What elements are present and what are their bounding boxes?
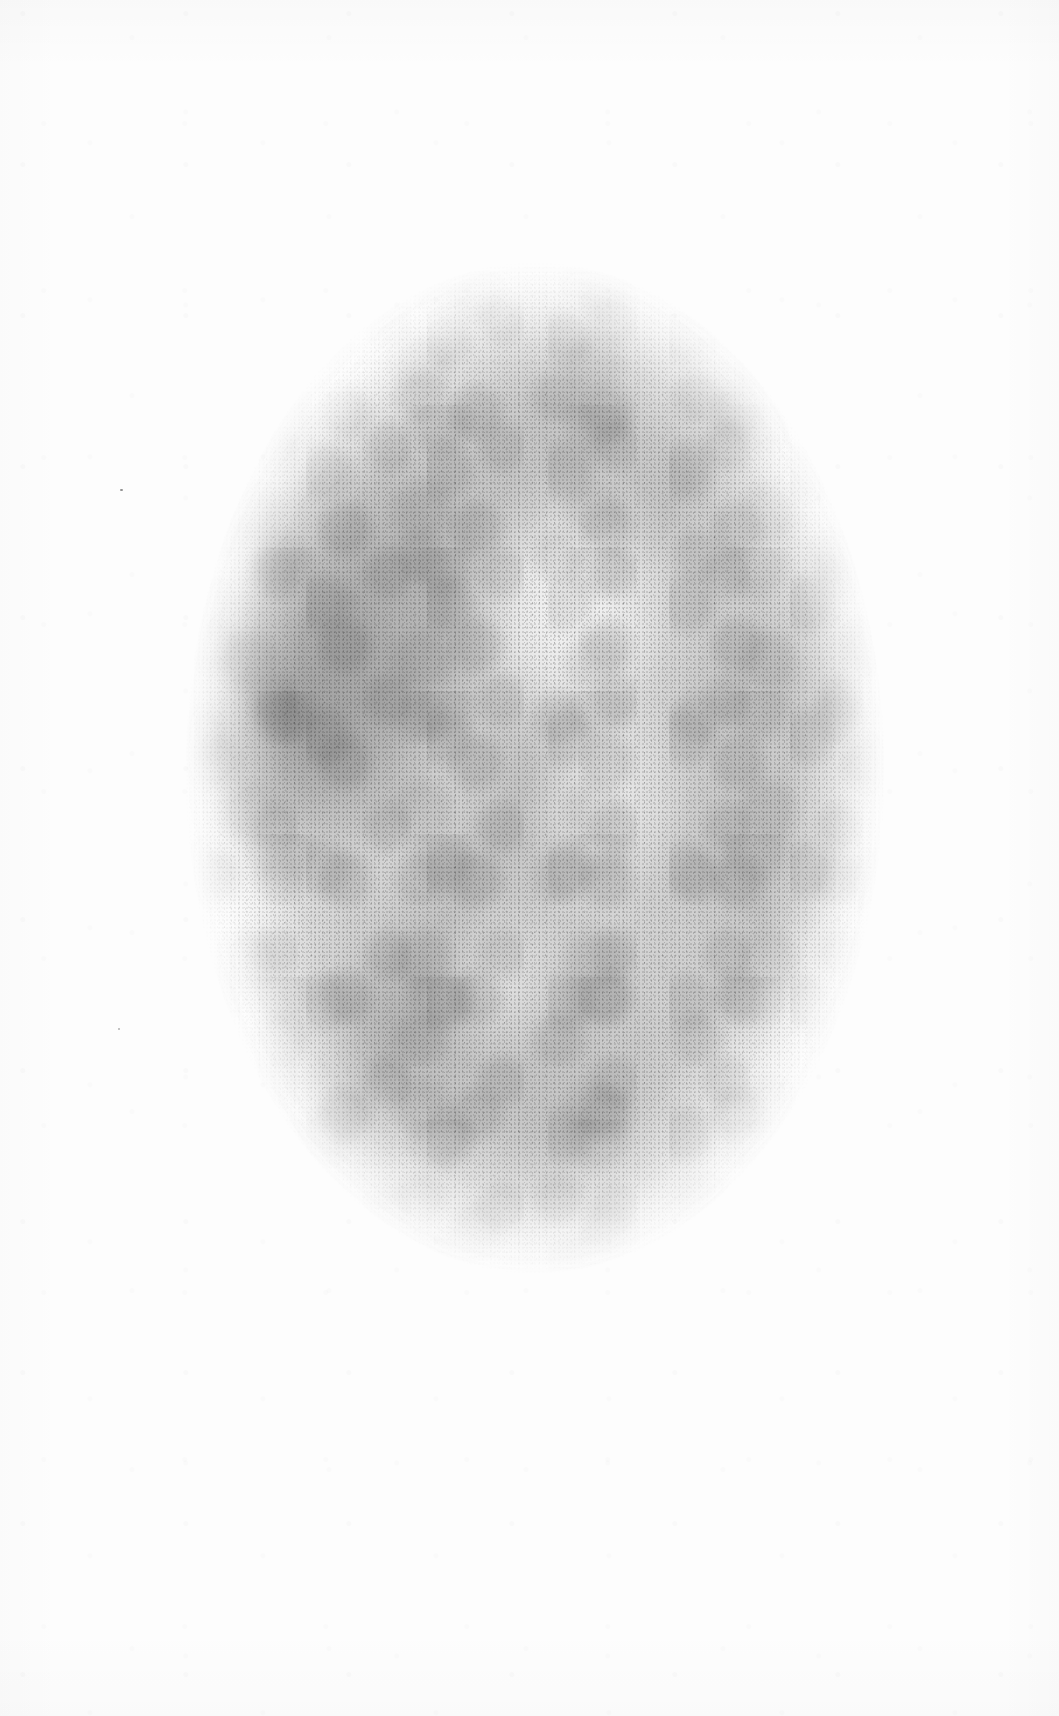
paper-speck-upper [120, 489, 123, 491]
chest-highlight [185, 262, 885, 1274]
drapery-lower-mass [185, 262, 885, 1274]
hair-mass-upper-left [185, 262, 885, 1274]
stipple-grain-coarse [185, 262, 885, 1274]
right-lower-shading-mass [185, 262, 885, 1274]
oval-portrait-plate [185, 262, 885, 1274]
drapery-lower-left-mass [185, 262, 885, 1274]
stipple-grain-fine [185, 262, 885, 1274]
shoulder-contour-edge [185, 262, 885, 1274]
print-page [0, 0, 1059, 1716]
face-highlight [185, 262, 885, 1274]
crown-shading-mass [185, 262, 885, 1274]
hair-mass-left-lower [185, 262, 885, 1274]
neck-highlight [185, 262, 885, 1274]
right-side-shading-mass [185, 262, 885, 1274]
oval-body-tone [185, 262, 885, 1274]
paper-speck-lower [118, 1028, 120, 1030]
stipple-clumping [185, 262, 885, 1274]
stipple-grain-medium [185, 262, 885, 1274]
